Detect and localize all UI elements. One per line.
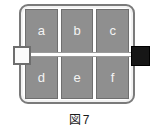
grid-cell-d-label: d <box>38 71 45 84</box>
figure-caption: 図7 <box>0 110 158 127</box>
grid-cell-b: b <box>61 9 94 53</box>
grid-cell-c-label: c <box>109 24 116 37</box>
grid-cell-a-label: a <box>38 24 45 37</box>
figure-root: a b c d e f 図7 <box>0 0 158 137</box>
figure-caption-number: 7 <box>83 113 90 127</box>
grid-cell-f-label: f <box>111 71 115 84</box>
figure-caption-prefix: 図 <box>69 110 81 127</box>
grid-cell-e: e <box>61 56 94 100</box>
grid-cell-c: c <box>96 9 129 53</box>
horizontal-divider-band <box>21 52 137 57</box>
left-handle-square <box>13 46 31 65</box>
grid-cell-e-label: e <box>73 71 80 84</box>
grid-cell-f: f <box>96 56 129 100</box>
right-handle-square <box>131 46 150 66</box>
grid-cell-b-label: b <box>73 24 80 37</box>
